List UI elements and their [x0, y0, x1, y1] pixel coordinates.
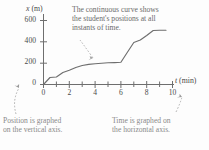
horizontal-axis-callout-leader [176, 97, 182, 112]
x-axis-title: t (min) [175, 76, 196, 85]
curve-callout-leader [80, 40, 93, 58]
position-time-graph-figure: x (m) t (min) 600 400 200 0 0 2 4 6 8 10… [0, 0, 209, 150]
horizontal-axis-callout-text: Time is graphed on the horizontal axis. [112, 117, 207, 135]
x-tick-label: 0 [37, 89, 51, 98]
curve-callout-text: The continuous curve shows the student's… [72, 6, 207, 33]
vertical-axis-callout-leader [15, 88, 19, 114]
position-curve [44, 30, 167, 84]
x-tick-label: 6 [114, 89, 128, 98]
x-tick-label: 10 [166, 89, 180, 98]
y-tick-label: 600 [14, 16, 36, 25]
y-axis-title: x (m) [26, 4, 43, 13]
vertical-axis-callout-text: Position is graphed on the vertical axis… [3, 117, 97, 135]
y-tick-label: 0 [14, 79, 36, 88]
y-tick-label: 200 [14, 58, 36, 67]
y-tick-label: 400 [14, 37, 36, 46]
x-tick-label: 2 [62, 89, 76, 98]
x-tick-label: 8 [140, 89, 154, 98]
x-tick-label: 4 [88, 89, 102, 98]
